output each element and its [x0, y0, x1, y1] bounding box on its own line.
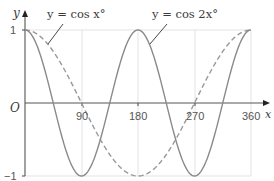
x-axis-arrow-icon — [263, 100, 270, 106]
axes — [22, 16, 264, 176]
x-tick-label-90: 90 — [76, 110, 88, 122]
leader-line-cos2x — [150, 24, 167, 44]
x-tick-label-360: 360 — [242, 110, 260, 122]
annotation-cos-2x: y = cos 2x° — [151, 7, 218, 21]
y-tick-label-1: 1 — [10, 24, 16, 36]
y-tick-label-minus1: −1 — [4, 170, 17, 181]
y-axis-arrow-icon — [22, 10, 28, 17]
x-tick-label-180: 180 — [129, 110, 147, 122]
annotation-cos-x: y = cos x° — [46, 7, 106, 21]
y-axis-label: y — [12, 6, 20, 20]
x-axis-label: x — [265, 108, 272, 121]
cosine-chart: y x O 1 −1 90 180 270 360 y = cos x° y =… — [0, 0, 274, 181]
x-tick-label-270: 270 — [186, 110, 204, 122]
origin-label: O — [10, 101, 20, 115]
leader-line-cosx — [48, 24, 63, 44]
